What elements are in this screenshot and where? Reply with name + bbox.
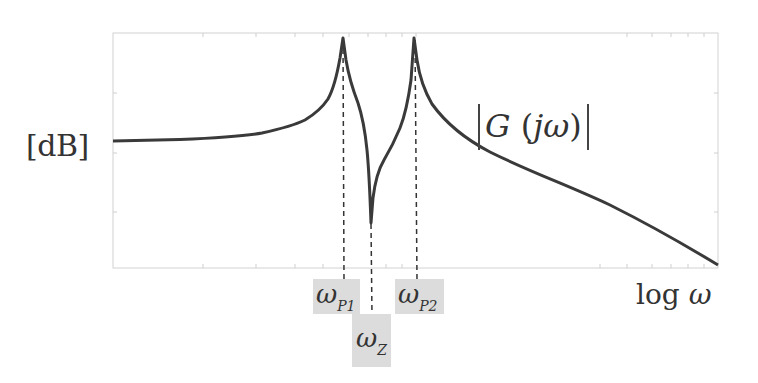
curve-label-G: G [485, 107, 511, 145]
x-axis-omega: ω [689, 278, 712, 311]
zero-subscript: Z [377, 342, 387, 358]
curve-label-G-jw: G (jω) [478, 104, 589, 150]
p2-dashed-line [415, 40, 417, 280]
curve-label-jw: jω [533, 107, 569, 145]
pole2-marker-label: ωP2 [395, 279, 444, 314]
z-dashed-line [371, 224, 372, 316]
pole2-omega: ω [398, 279, 419, 309]
zero-omega: ω [356, 323, 377, 353]
p1-dashed-line [343, 40, 344, 280]
pole1-marker-label: ωP1 [313, 279, 360, 314]
curve-label-close-paren: ) [569, 107, 581, 145]
pole1-subscript: P1 [337, 298, 355, 314]
zero-marker-label: ωZ [352, 314, 391, 367]
pole1-omega: ω [316, 279, 337, 309]
curve-label-open-paren: ( [521, 107, 533, 145]
pole2-subscript: P2 [419, 298, 437, 314]
y-axis-label: [dB] [26, 128, 89, 163]
x-axis-label: log ω [636, 278, 712, 311]
x-axis-log: log [636, 278, 680, 311]
